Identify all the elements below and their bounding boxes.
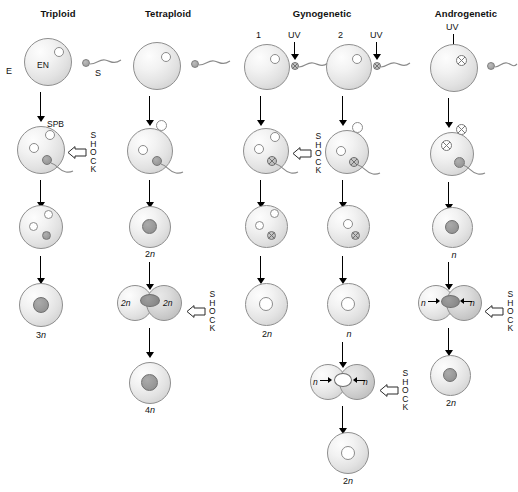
andro-polar-body-inactivated bbox=[456, 124, 467, 135]
gyno-branch2-result-label: 2n bbox=[318, 476, 378, 486]
gyno-branch1-result-label: 2n bbox=[237, 329, 297, 339]
triploid-male-pronucleus-2 bbox=[42, 231, 51, 240]
tetraploid-egg-nucleus bbox=[161, 52, 171, 62]
triploid-shock-group: S H O C K bbox=[67, 131, 97, 174]
gyno-branch1-retained-cell bbox=[245, 205, 288, 248]
andro-inactivated-female-pronucleus bbox=[441, 140, 452, 151]
triploid-egg-nucleus bbox=[54, 47, 64, 57]
gyno-branch1-shock-label: S H O C K bbox=[315, 132, 322, 175]
gyno-branch2-shock-group: S H O C K bbox=[379, 369, 409, 412]
gyno-branch1-inactivated-male-pronucleus-2 bbox=[267, 231, 276, 240]
gyno-branch2-number: 2 bbox=[338, 30, 343, 40]
gyno-branch1-female-pronucleus-2 bbox=[255, 221, 264, 230]
gyno-branch1-uv-label: UV bbox=[288, 30, 301, 40]
tetraploid-polar-body bbox=[156, 120, 167, 131]
andro-arrow-in-right bbox=[460, 298, 472, 304]
triploid-result-label: 3n bbox=[11, 330, 71, 340]
gyno-branch2-n-label: n bbox=[319, 329, 379, 339]
gyno-branch2-polar-body bbox=[352, 122, 363, 133]
shock-letter-k: K bbox=[402, 403, 409, 412]
tetraploid-sperm-tail bbox=[198, 56, 232, 72]
tetraploid-result-label: 4n bbox=[120, 405, 180, 415]
gyno-branch2-arrow-in-right bbox=[353, 377, 365, 383]
gyno-branch1-female-pronucleus bbox=[254, 144, 264, 154]
tetraploid-female-pronucleus bbox=[138, 145, 148, 155]
gyno-branch1-result-nucleus bbox=[259, 297, 273, 311]
andro-shock-group: S H O C K bbox=[484, 290, 514, 333]
column-title-tetraploid: Tetraploid bbox=[118, 8, 218, 19]
gyno-branch2-result-nucleus bbox=[341, 446, 355, 460]
triploid-sperm-label: S bbox=[95, 68, 101, 78]
column-title-triploid: Triploid bbox=[8, 8, 108, 19]
triploid-polar-body bbox=[45, 130, 55, 140]
triploid-retained-polar-body-cell bbox=[19, 205, 63, 249]
gyno-branch1-shock-group: S H O C K bbox=[292, 132, 322, 175]
shock-arrow-icon bbox=[67, 146, 87, 159]
tetraploid-attached-sperm-tail bbox=[160, 161, 184, 177]
gyno-branch2-attached-sperm-tail bbox=[357, 162, 381, 178]
column-title-gynogenetic: Gynogenetic bbox=[262, 8, 382, 19]
gyno-branch2-n-nucleus bbox=[341, 297, 355, 311]
andro-sperm-tail bbox=[494, 58, 518, 74]
triploid-female-pronucleus-2 bbox=[29, 222, 38, 231]
shock-arrow-icon bbox=[292, 147, 312, 160]
shock-arrow-icon bbox=[484, 305, 504, 318]
shock-letter-k: K bbox=[315, 166, 322, 175]
tetraploid-shock-label: S H O C K bbox=[209, 290, 216, 333]
tetraploid-egg bbox=[133, 42, 181, 90]
triploid-spb-label: SPB bbox=[47, 119, 64, 129]
gyno-branch2-female-pronucleus bbox=[336, 146, 346, 156]
column-title-androgenetic: Androgenetic bbox=[418, 8, 514, 19]
gyno-branch1-egg bbox=[244, 44, 290, 90]
gyno-branch2-uv-label: UV bbox=[370, 30, 383, 40]
gyno-branch2-lobe-left-label: n bbox=[313, 377, 318, 387]
triploid-egg-nucleus-label: EN bbox=[37, 60, 49, 70]
tetraploid-result-nucleus bbox=[141, 374, 158, 391]
triploid-result-nucleus bbox=[33, 297, 49, 313]
gyno-branch2-arrow-in-left bbox=[320, 377, 332, 383]
andro-shock-label: S H O C K bbox=[507, 290, 514, 333]
gyno-branch1-polar-body-2 bbox=[270, 209, 279, 218]
gyno-branch2-egg bbox=[326, 44, 372, 90]
gyno-branch2-egg-nucleus bbox=[352, 54, 362, 64]
andro-uv-label: UV bbox=[446, 22, 459, 32]
figure-canvas: Triploid Tetraploid Gynogenetic Androgen… bbox=[0, 0, 518, 492]
andro-arrow-in-left bbox=[428, 298, 440, 304]
gyno-branch1-number: 1 bbox=[256, 30, 261, 40]
shock-letter-k: K bbox=[90, 165, 97, 174]
gyno-branch2-cleavage-nucleus bbox=[334, 373, 352, 387]
andro-n-nucleus bbox=[445, 220, 459, 234]
gyno-branch1-polar-body bbox=[270, 132, 280, 142]
andro-cleavage-nucleus bbox=[441, 295, 460, 308]
andro-lobe-left-label: n bbox=[421, 298, 426, 308]
tetraploid-2n-nucleus bbox=[142, 219, 157, 234]
gyno-branch2-inactivated-male-pronucleus-2 bbox=[351, 231, 360, 240]
triploid-egg-label: E bbox=[6, 66, 12, 76]
shock-arrow-icon bbox=[379, 384, 399, 397]
shock-arrow-icon bbox=[186, 305, 206, 318]
andro-n-label: n bbox=[424, 250, 484, 260]
tetraploid-shock-group: S H O C K bbox=[186, 290, 216, 333]
shock-letter-k: K bbox=[209, 324, 216, 333]
gyno-branch2-female-pronucleus-2 bbox=[343, 219, 353, 229]
tetraploid-lobe-left-label: 2n bbox=[121, 298, 130, 308]
shock-letter-k: K bbox=[507, 324, 514, 333]
tetraploid-2n-label: 2n bbox=[120, 249, 180, 259]
triploid-shock-label: S H O C K bbox=[90, 131, 97, 174]
andro-attached-sperm-tail bbox=[462, 162, 486, 178]
tetraploid-lobe-right-label: 2n bbox=[163, 298, 172, 308]
gyno-branch2-sperm-tail bbox=[380, 58, 412, 74]
gyno-branch1-egg-nucleus bbox=[270, 54, 280, 64]
andro-egg bbox=[430, 44, 478, 92]
triploid-polar-body-2 bbox=[44, 210, 53, 219]
andro-result-label: 2n bbox=[421, 398, 481, 408]
tetraploid-cleavage-nucleus bbox=[140, 294, 160, 307]
andro-inactivated-egg-nucleus bbox=[456, 55, 467, 66]
triploid-female-pronucleus bbox=[29, 143, 39, 153]
andro-result-nucleus bbox=[443, 368, 457, 382]
gyno-branch2-shock-label: S H O C K bbox=[402, 369, 409, 412]
